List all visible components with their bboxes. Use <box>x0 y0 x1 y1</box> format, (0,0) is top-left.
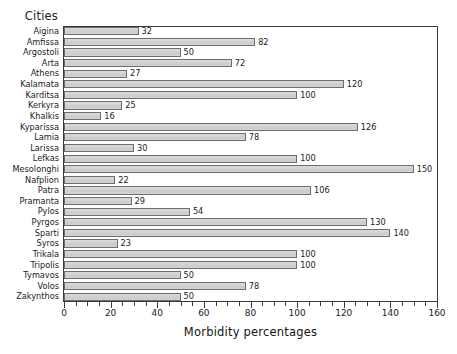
bar-track: 27 <box>64 68 437 79</box>
x-tick-minor <box>379 302 380 306</box>
bar-track: 50 <box>64 291 437 302</box>
bar-track: 78 <box>64 132 437 143</box>
x-tick-minor <box>262 302 263 306</box>
bar <box>64 91 297 99</box>
category-label: Kalamata <box>0 79 59 90</box>
bar-row: Kalamata120 <box>0 79 457 90</box>
bar-track: 126 <box>64 122 437 133</box>
x-tick-label: 160 <box>428 308 445 318</box>
category-label: Lefkas <box>0 153 59 164</box>
bar-track: 150 <box>64 164 437 175</box>
category-label: Zakynthos <box>0 291 59 302</box>
category-label: Argostoli <box>0 47 59 58</box>
category-label: Tripolis <box>0 260 59 271</box>
bar-value-label: 23 <box>121 238 131 249</box>
bar-row: Pylos54 <box>0 206 457 217</box>
bar-track: 78 <box>64 281 437 292</box>
bar-row: Lamia78 <box>0 132 457 143</box>
bar <box>64 271 181 279</box>
bar-row: Kyparissa126 <box>0 122 457 133</box>
x-tick-label: 40 <box>152 308 163 318</box>
bar <box>64 186 311 194</box>
bar-value-label: 32 <box>142 26 152 37</box>
x-tick-minor <box>122 302 123 306</box>
bar-value-label: 50 <box>184 270 194 281</box>
bar-track: 100 <box>64 249 437 260</box>
bar-track: 140 <box>64 228 437 239</box>
x-tick-minor <box>134 302 135 306</box>
bar-row: Argostoli50 <box>0 47 457 58</box>
category-label: Arta <box>0 58 59 69</box>
x-tick-minor <box>355 302 356 306</box>
category-label: Volos <box>0 281 59 292</box>
x-tick-minor <box>227 302 228 306</box>
bar-row: Volos78 <box>0 281 457 292</box>
y-axis-title: Cities <box>0 9 58 23</box>
bar-track: 29 <box>64 196 437 207</box>
x-tick-minor <box>274 302 275 306</box>
bar-value-label: 72 <box>235 58 245 69</box>
category-label: Tymavos <box>0 270 59 281</box>
x-tick-minor <box>169 302 170 306</box>
category-label: Aigina <box>0 26 59 37</box>
category-label: Kerkyra <box>0 100 59 111</box>
bar-track: 16 <box>64 111 437 122</box>
category-label: Trikala <box>0 249 59 260</box>
bar-row: Pramanta29 <box>0 196 457 207</box>
bar-row: Larissa30 <box>0 143 457 154</box>
bar <box>64 250 297 258</box>
bar <box>64 38 255 46</box>
x-axis-title: Morbidity percentages <box>63 325 438 339</box>
bar-value-label: 100 <box>300 249 316 260</box>
x-tick-minor <box>146 302 147 306</box>
category-label: Karditsa <box>0 90 59 101</box>
bar-track: 30 <box>64 143 437 154</box>
x-tick-minor <box>414 302 415 306</box>
bar-value-label: 150 <box>417 164 433 175</box>
bar-track: 82 <box>64 37 437 48</box>
bar-value-label: 130 <box>370 217 386 228</box>
bar-value-label: 29 <box>135 196 145 207</box>
x-tick-label: 80 <box>245 308 256 318</box>
x-tick-minor <box>285 302 286 306</box>
bar-track: 54 <box>64 206 437 217</box>
x-tick-minor <box>332 302 333 306</box>
bar-value-label: 120 <box>347 79 363 90</box>
bar-track: 32 <box>64 26 437 37</box>
bar-value-label: 106 <box>314 185 330 196</box>
bar-value-label: 78 <box>249 132 259 143</box>
category-label: Nafplion <box>0 175 59 186</box>
x-tick-minor <box>309 302 310 306</box>
category-label: Khalkis <box>0 111 59 122</box>
x-tick-label: 20 <box>105 308 116 318</box>
bar <box>64 59 232 67</box>
bar <box>64 27 139 35</box>
bar-row: Tripolis100 <box>0 260 457 271</box>
x-tick-minor <box>216 302 217 306</box>
bar-track: 22 <box>64 175 437 186</box>
x-tick-minor <box>367 302 368 306</box>
bar <box>64 293 181 301</box>
bar-value-label: 50 <box>184 291 194 302</box>
x-tick-minor <box>76 302 77 306</box>
bar-row: Nafplion22 <box>0 175 457 186</box>
bar-value-label: 25 <box>125 100 135 111</box>
x-tick-label: 0 <box>61 308 67 318</box>
bar-row: Arta72 <box>0 58 457 69</box>
bar-value-label: 16 <box>104 111 114 122</box>
bar-row: Athens27 <box>0 68 457 79</box>
bar <box>64 197 132 205</box>
bar <box>64 239 118 247</box>
bar-track: 23 <box>64 238 437 249</box>
category-label: Lamia <box>0 132 59 143</box>
bar <box>64 80 344 88</box>
bar-value-label: 82 <box>258 37 268 48</box>
bar-track: 25 <box>64 100 437 111</box>
x-tick-minor <box>402 302 403 306</box>
category-label: Amfissa <box>0 37 59 48</box>
bar-value-label: 126 <box>361 122 377 133</box>
bar-row: Pyrgos130 <box>0 217 457 228</box>
x-tick-minor <box>239 302 240 306</box>
bar-track: 106 <box>64 185 437 196</box>
bar <box>64 282 246 290</box>
